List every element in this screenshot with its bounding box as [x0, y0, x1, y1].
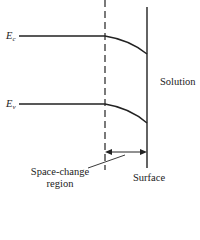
space-region-label: Space-change region	[25, 166, 95, 190]
space-region-line1: Space-change	[25, 166, 95, 178]
space-region-line2: region	[25, 178, 95, 190]
conduction-band-line	[19, 36, 147, 54]
ev-label: Ev	[6, 98, 16, 113]
arrowhead-left	[105, 149, 112, 155]
arrowhead-right	[140, 149, 147, 155]
ec-label: Ec	[6, 30, 16, 45]
valence-band-line	[19, 104, 147, 123]
surface-label: Surface	[133, 172, 165, 184]
solution-label: Solution	[160, 76, 196, 88]
